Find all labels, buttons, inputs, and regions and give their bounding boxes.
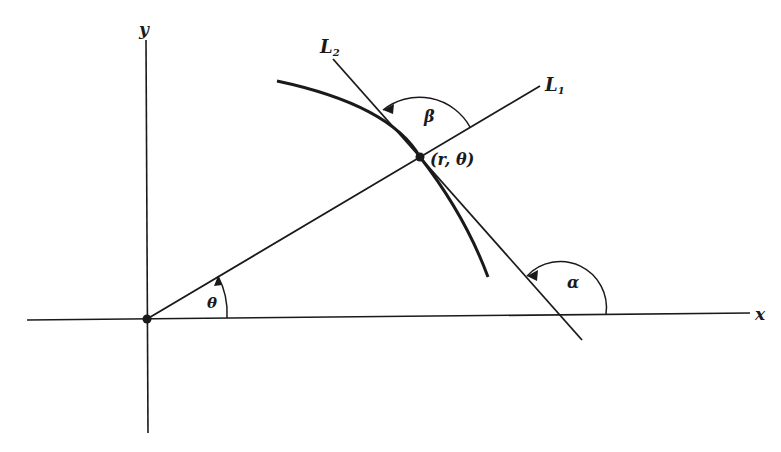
origin-dot	[143, 315, 152, 324]
line-L1	[147, 86, 540, 319]
line-L2	[333, 59, 582, 340]
beta-label: β	[423, 107, 435, 126]
point-label: (r, θ)	[430, 150, 474, 169]
theta-label: θ	[207, 294, 217, 312]
polar-tangent-diagram: y x L2 L1 (r, θ) θ β α	[0, 0, 781, 452]
x-axis-label: x	[754, 304, 766, 324]
y-axis-label: y	[138, 19, 150, 39]
point-dot	[416, 153, 425, 162]
y-axis	[146, 40, 148, 433]
alpha-label: α	[567, 273, 579, 292]
L1-label: L1	[544, 74, 565, 96]
x-axis	[27, 313, 750, 320]
L2-label: L2	[319, 36, 340, 58]
